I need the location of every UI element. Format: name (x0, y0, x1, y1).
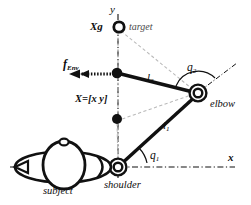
hand-state-label: X=[x y] (75, 94, 108, 105)
angle-q1-arc (139, 148, 147, 163)
elbow-label: elbow (210, 99, 235, 110)
angle2-subscript: 2 (193, 67, 197, 75)
subject-head (43, 141, 85, 189)
subject-body (15, 139, 111, 189)
link1-label: l1 (163, 120, 170, 133)
target-name-label: target (129, 22, 153, 32)
target-point-label: Xg (90, 21, 103, 32)
angle2-label: q2 (187, 62, 196, 75)
angle1-subscript: 1 (156, 155, 160, 163)
force-env-label: fEnv (63, 58, 79, 72)
shoulder-label: shoulder (104, 180, 141, 191)
force-subscript: Env (67, 64, 79, 72)
link-l2-segment (117, 73, 197, 93)
target-marker (114, 22, 124, 32)
elbow-joint (190, 85, 207, 102)
ghost-construction-lines (117, 31, 196, 164)
link2-subscript: 2 (150, 77, 154, 85)
subject-label: subject (43, 186, 73, 197)
intermediate-position-dot (112, 114, 122, 124)
link2-label: l2 (147, 72, 154, 85)
link1-subscript: 1 (166, 125, 170, 133)
y-axis-label: y (110, 4, 115, 15)
x-axis-label: x (228, 152, 234, 163)
figure-canvas: y x Xg target fEnv X=[x y] l2 l1 q2 q1 e… (0, 0, 251, 205)
subject-nose (59, 139, 68, 146)
elbow-reference-ray (200, 63, 237, 91)
hand-position-dot (112, 68, 123, 79)
angle1-label: q1 (150, 150, 159, 163)
